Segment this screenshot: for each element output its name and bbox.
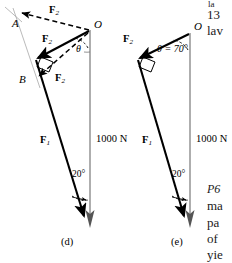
panel-d-F2-lower-sub: 2 [61, 77, 65, 85]
margin-text-bottom-line-4: of [207, 232, 218, 247]
margin-text-bottom-line-5: yie [207, 248, 223, 263]
panel-d-ground-angle-arc [72, 196, 89, 200]
panel-d-F2-solid-sub: 2 [48, 38, 52, 46]
margin-text-bottom-line-3: pa [207, 216, 219, 231]
margin-text-top-line-3: lav [207, 24, 223, 39]
panel-d-ground-angle-label: 20° [72, 170, 85, 180]
margin-text-bottom-line-1: P6 [207, 183, 220, 196]
panel-e-ground-angle-label: 20° [172, 170, 185, 180]
panel-e-load-vector [186, 33, 195, 228]
panel-d-F2-upper-sub: 2 [55, 9, 59, 17]
panel-d-load-label: 1000 N [96, 134, 127, 145]
panel-d-F2-upper-label: F2 [49, 5, 59, 17]
panel-d-load-vector [86, 30, 95, 228]
panel-d-F2-lower-label: F2 [55, 73, 65, 85]
panel-d-point-O-label: O [94, 19, 102, 30]
panel-e-ground-angle-arc [172, 196, 189, 200]
panel-d-F2-solid-label: F2 [42, 34, 52, 46]
panel-e-F1-label: F1 [142, 135, 152, 147]
panel-e-caption: (e) [171, 237, 183, 248]
panel-d-point-B-label: B [19, 74, 26, 85]
panel-e-F2-sub: 2 [129, 38, 133, 46]
panel-d-F1-sub: 1 [46, 139, 50, 147]
panel-e-F1-sub: 1 [148, 139, 152, 147]
panel-e-load-label: 1000 N [196, 134, 227, 145]
margin-text-top-line-2: 13 [207, 8, 220, 23]
panel-e-theta-label: θ = 70° [157, 44, 188, 54]
panel-d-theta-label: θ [76, 44, 81, 54]
panel-d-caption: (d) [61, 237, 73, 248]
margin-text-bottom-line-2: ma [207, 199, 223, 214]
panel-d-point-A-label: A [12, 18, 19, 29]
panel-e-point-O-label: O [194, 21, 202, 32]
panel-e-F2-label: F2 [123, 34, 133, 46]
panel-d-F1-label: F1 [40, 135, 50, 147]
